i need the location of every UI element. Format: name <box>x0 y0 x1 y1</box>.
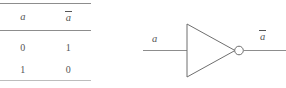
inverter-triangle-icon <box>187 24 235 77</box>
output-signal-label: a <box>260 30 265 43</box>
table-header-row: a a <box>0 11 91 24</box>
overbar-glyph: a <box>260 30 265 43</box>
table-rule-header <box>0 30 91 31</box>
table-row: 1 0 <box>0 64 91 76</box>
cell-abar-row1: 1 <box>46 42 92 54</box>
column-header-a-bar: a <box>46 11 92 24</box>
table-rule-bottom <box>0 80 91 81</box>
cell-abar-row2: 0 <box>46 64 92 76</box>
column-header-a: a <box>0 11 46 24</box>
truth-table: a a 0 1 1 0 <box>0 0 93 88</box>
cell-a-row2: 1 <box>0 64 46 76</box>
cell-a-row1: 0 <box>0 42 46 54</box>
gate-symbol-svg <box>138 0 286 88</box>
inversion-bubble-icon <box>235 46 244 55</box>
not-gate-diagram: a a <box>138 0 286 88</box>
overbar-glyph: a <box>66 11 71 24</box>
table-row: 0 1 <box>0 42 91 54</box>
table-rule-top <box>0 3 91 4</box>
input-signal-label: a <box>152 33 157 45</box>
